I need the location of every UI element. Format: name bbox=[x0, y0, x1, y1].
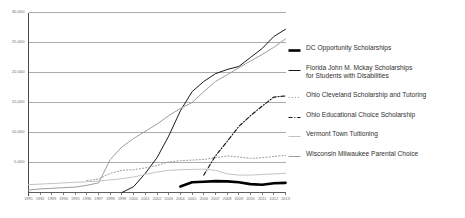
legend-item-label: Florida John M. Mckay Scholarships for S… bbox=[306, 64, 412, 81]
legend-item-label: Wisconsin Milwaukee Parental Choice bbox=[306, 150, 418, 159]
gray-solid-line-icon bbox=[288, 152, 301, 161]
y-axis-tick-label: 10,000 bbox=[0, 130, 25, 134]
legend-item: Florida John M. Mckay Scholarships for S… bbox=[288, 64, 465, 81]
legend-item-label: Ohio Educational Choice Scholarship bbox=[306, 111, 415, 120]
y-axis-tick-label: 20,000 bbox=[0, 70, 25, 74]
line-chart: 5,00010,00015,00020,00025,00030,000 1991… bbox=[0, 0, 465, 218]
x-axis-tick-label: 2013 bbox=[275, 197, 297, 201]
series-line bbox=[87, 155, 286, 180]
dotted-line-icon bbox=[288, 93, 301, 102]
y-axis-tick-label: 15,000 bbox=[0, 100, 25, 104]
legend-item-label: Vermont Town Tuitioning bbox=[306, 130, 378, 139]
y-axis-tick-label: 25,000 bbox=[0, 40, 25, 44]
series-line bbox=[29, 39, 286, 190]
legend-item: DC Opportunity Scholarships bbox=[288, 44, 465, 53]
y-axis-tick-label: 30,000 bbox=[0, 10, 25, 14]
light-solid-line-icon bbox=[288, 132, 301, 141]
solid-line-icon bbox=[288, 66, 301, 75]
y-axis-tick-label: 5,000 bbox=[0, 160, 25, 164]
series-line bbox=[204, 96, 286, 175]
series-line bbox=[180, 181, 285, 186]
legend-item: Ohio Educational Choice Scholarship bbox=[288, 111, 465, 120]
legend-item: Vermont Town Tuitioning bbox=[288, 130, 465, 139]
chart-legend: DC Opportunity ScholarshipsFlorida John … bbox=[288, 44, 465, 169]
dash-dot-line-icon bbox=[288, 113, 301, 122]
legend-item: Ohio Cleveland Scholarship and Tutoring bbox=[288, 91, 465, 100]
legend-item-label: DC Opportunity Scholarships bbox=[306, 44, 391, 53]
thick-solid-line-icon bbox=[288, 46, 301, 55]
legend-item-label: Ohio Cleveland Scholarship and Tutoring bbox=[306, 91, 426, 100]
legend-item: Wisconsin Milwaukee Parental Choice bbox=[288, 150, 465, 159]
